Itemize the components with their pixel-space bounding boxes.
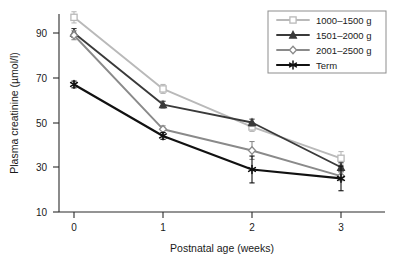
chart-figure: 90 70 50 30 10 0 1 2 3 Postnatal age (we…: [0, 0, 393, 261]
y-tick-label-90: 90: [36, 28, 48, 39]
legend-label-3: Term: [316, 60, 337, 71]
x-tick-label-2: 2: [249, 222, 255, 233]
y-tick-label-50: 50: [36, 118, 48, 129]
series-4: [71, 81, 345, 191]
marker-square: [338, 155, 344, 161]
plot-area: 90 70 50 30 10 0 1 2 3 Postnatal age (we…: [0, 0, 393, 261]
x-tick-label-1: 1: [160, 222, 166, 233]
marker-square: [290, 17, 296, 23]
y-axis-title: Plasma creatinine (µmol/l): [8, 52, 20, 174]
y-axis-ticks: [53, 33, 59, 212]
marker-square: [71, 14, 77, 20]
x-axis-ticks: [74, 212, 341, 218]
marker-star: [71, 81, 78, 89]
x-axis-title: Postnatal age (weeks): [170, 242, 274, 254]
x-tick-label-3: 3: [338, 222, 344, 233]
y-tick-label-30: 30: [36, 162, 48, 173]
marker-square: [160, 86, 166, 92]
legend-label-2: 2001–2500 g: [316, 45, 371, 56]
marker-diamond: [249, 147, 256, 154]
x-tick-label-0: 0: [71, 222, 77, 233]
y-tick-label-10: 10: [36, 207, 48, 218]
y-tick-label-70: 70: [36, 73, 48, 84]
legend-label-0: 1000–1500 g: [316, 15, 371, 26]
legend-label-1: 1501–2000 g: [316, 30, 371, 41]
